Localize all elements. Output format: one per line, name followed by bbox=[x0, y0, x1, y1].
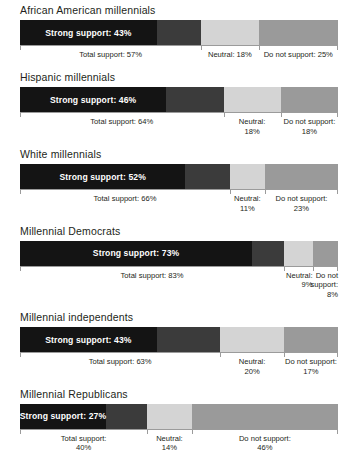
bar-wrapper: Strong support: 73%Total support: 83%Neu… bbox=[20, 241, 338, 301]
axis-line bbox=[20, 189, 338, 190]
strong-support-label: Strong support: 73% bbox=[89, 248, 183, 258]
label-do-not-support: Do not support: 8% bbox=[308, 271, 338, 299]
group-title: Millennial independents bbox=[20, 311, 338, 324]
label-do-not-support: Do not support: 17% bbox=[284, 357, 338, 376]
group-title: White millennials bbox=[20, 148, 338, 161]
axis-line bbox=[20, 266, 338, 267]
strong-support-label: Strong support: 46% bbox=[46, 95, 140, 105]
axis-labels: Total support: 83%Neutral: 9%Do not supp… bbox=[20, 271, 338, 301]
axis-labels: Total support: 57%Neutral: 18%Do not sup… bbox=[20, 50, 338, 61]
strong-support-label: Strong support: 27% bbox=[20, 411, 110, 421]
stacked-bar: Strong support: 43% bbox=[20, 327, 338, 352]
label-total-support: Total support: 57% bbox=[20, 50, 201, 59]
strong-support-label: Strong support: 43% bbox=[41, 335, 135, 345]
strong-support-label: Strong support: 52% bbox=[55, 172, 149, 182]
label-neutral: Neutral: 14% bbox=[147, 434, 192, 453]
label-total-support: Total support: 63% bbox=[20, 357, 220, 366]
label-total-support: Total support: 66% bbox=[20, 194, 230, 203]
label-neutral: Neutral: 18% bbox=[224, 117, 281, 136]
label-do-not-support: Do not support: 25% bbox=[259, 50, 339, 59]
stacked-bar: Strong support: 46% bbox=[20, 87, 338, 112]
axis-labels: Total support: 63%Neutral: 20%Do not sup… bbox=[20, 357, 338, 378]
bar-wrapper: Strong support: 46%Total support: 64%Neu… bbox=[20, 87, 338, 138]
segment-strong-support: Strong support: 46% bbox=[20, 87, 166, 112]
label-total-support: Total support: 40% bbox=[20, 434, 147, 453]
group-title: Millennial Democrats bbox=[20, 225, 338, 238]
bar-group: Millennial independentsStrong support: 4… bbox=[20, 311, 338, 378]
axis-labels: Total support: 40%Neutral: 14%Do not sup… bbox=[20, 434, 338, 454]
segment-strong-support: Strong support: 43% bbox=[20, 20, 157, 45]
segment-strong-support: Strong support: 52% bbox=[20, 164, 185, 189]
bar-group: Millennial DemocratsStrong support: 73%T… bbox=[20, 225, 338, 301]
segment-strong-support: Strong support: 43% bbox=[20, 327, 157, 352]
bar-group: White millennialsStrong support: 52%Tota… bbox=[20, 148, 338, 215]
bar-wrapper: Strong support: 27%Total support: 40%Neu… bbox=[20, 404, 338, 454]
label-neutral: Neutral: 20% bbox=[220, 357, 284, 376]
bar-group: Millennial RepublicansStrong support: 27… bbox=[20, 388, 338, 454]
segment-strong-support: Strong support: 27% bbox=[20, 404, 106, 429]
stacked-bar: Strong support: 43% bbox=[20, 20, 338, 45]
label-total-support: Total support: 83% bbox=[20, 271, 284, 280]
label-do-not-support: Do not support: 46% bbox=[192, 434, 338, 453]
group-title: Hispanic millennials bbox=[20, 71, 338, 84]
strong-support-label: Strong support: 43% bbox=[41, 28, 135, 38]
axis-line bbox=[20, 429, 338, 430]
label-do-not-support: Do not support: 23% bbox=[265, 194, 338, 213]
bar-wrapper: Strong support: 43%Total support: 63%Neu… bbox=[20, 327, 338, 378]
group-title: African American millennials bbox=[20, 4, 338, 17]
stacked-bar: Strong support: 73% bbox=[20, 241, 338, 266]
axis-line bbox=[20, 45, 338, 46]
label-neutral: Neutral: 11% bbox=[230, 194, 265, 213]
group-title: Millennial Republicans bbox=[20, 388, 338, 401]
axis-line bbox=[20, 352, 338, 353]
label-total-support: Total support: 64% bbox=[20, 117, 224, 126]
axis-line bbox=[20, 112, 338, 113]
bar-wrapper: Strong support: 43%Total support: 57%Neu… bbox=[20, 20, 338, 61]
bar-group: Hispanic millennialsStrong support: 46%T… bbox=[20, 71, 338, 138]
axis-labels: Total support: 66%Neutral: 11%Do not sup… bbox=[20, 194, 338, 215]
label-neutral: Neutral: 18% bbox=[201, 50, 258, 59]
label-do-not-support: Do not support: 18% bbox=[281, 117, 338, 136]
bar-wrapper: Strong support: 52%Total support: 66%Neu… bbox=[20, 164, 338, 215]
bar-group: African American millennialsStrong suppo… bbox=[20, 4, 338, 61]
stacked-bar: Strong support: 52% bbox=[20, 164, 338, 189]
stacked-bar: Strong support: 27% bbox=[20, 404, 338, 429]
segment-strong-support: Strong support: 73% bbox=[20, 241, 252, 266]
axis-labels: Total support: 64%Neutral: 18%Do not sup… bbox=[20, 117, 338, 138]
